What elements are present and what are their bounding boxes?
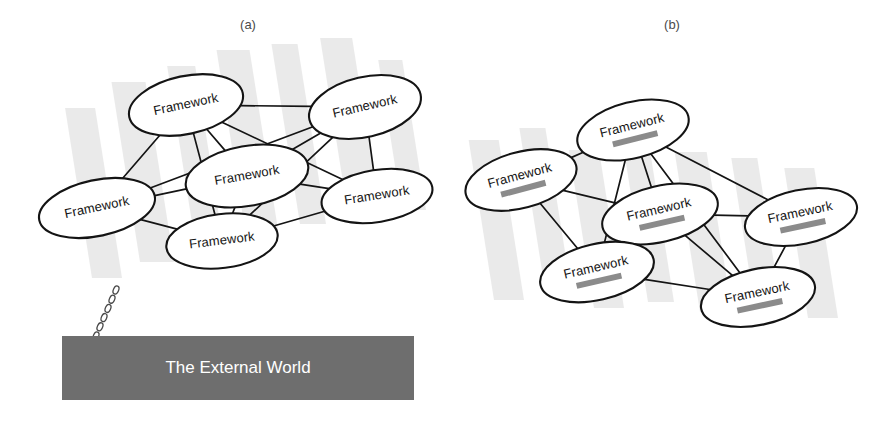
edge-b3-b4 — [714, 215, 749, 216]
edge-a1-a2 — [240, 106, 312, 107]
chain-link — [104, 304, 112, 314]
edge-a1-a3 — [207, 129, 225, 150]
chain-link — [108, 294, 116, 304]
chain-link — [112, 285, 120, 295]
panel-caption-panel-b: (b) — [664, 17, 680, 32]
diagram-canvas: FrameworkFrameworkFrameworkFrameworkFram… — [0, 0, 890, 421]
panel-a: FrameworkFrameworkFrameworkFrameworkFram… — [33, 17, 436, 400]
external-world-group: The External World — [62, 285, 414, 400]
panel-b: FrameworkFrameworkFrameworkFrameworkFram… — [459, 17, 863, 336]
chain-connector — [92, 285, 120, 341]
external-world-label: The External World — [165, 358, 310, 377]
chain-link — [96, 322, 104, 332]
chain-link — [100, 313, 108, 323]
figure-container: FrameworkFrameworkFrameworkFrameworkFram… — [0, 0, 890, 421]
edge-b4-b6 — [774, 246, 785, 267]
panel-caption-panel-a: (a) — [240, 17, 256, 32]
